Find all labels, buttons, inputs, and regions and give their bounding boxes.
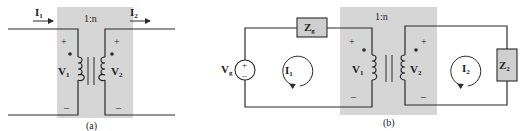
loop-current-label-1: I1 [285, 64, 293, 78]
minus-sign-a-secondary: – [115, 102, 122, 113]
minus-sign-b-secondary: – [420, 91, 427, 102]
source-minus-sign: – [241, 70, 247, 80]
polarity-dot-icon-a [110, 52, 114, 56]
caption-a: (a) [86, 120, 97, 131]
transformer-diagrams: I1 I2 1:n + + – – V1 V2 (a) Zg Z2 + – Vg… [0, 0, 523, 131]
plus-sign-b-secondary: + [421, 36, 427, 47]
minus-sign-b-primary: – [350, 91, 357, 102]
figure-b: Zg Z2 + – Vg I1 I2 1:n + + – – V1 V2 (b) [221, 7, 517, 129]
current-label-in: I1 [35, 6, 43, 20]
turns-ratio-b: 1:n [375, 11, 388, 22]
plus-sign-a-primary: + [61, 36, 67, 47]
loop-current-label-2: I2 [462, 62, 470, 76]
source-voltage-label: Vg [221, 63, 233, 77]
polarity-dot-icon-a [68, 52, 72, 56]
plus-sign-a-secondary: + [114, 36, 120, 47]
source-plus-sign: + [242, 60, 247, 70]
plus-sign-b-primary: + [349, 36, 355, 47]
current-label-out: I2 [130, 6, 138, 20]
turns-ratio-a: 1:n [84, 13, 97, 24]
polarity-dot-icon-b [362, 48, 366, 52]
minus-sign-a-primary: – [63, 102, 70, 113]
polarity-dot-icon-b [414, 48, 418, 52]
caption-b: (b) [383, 117, 395, 129]
figure-a: I1 I2 1:n + + – – V1 V2 (a) [8, 6, 175, 131]
